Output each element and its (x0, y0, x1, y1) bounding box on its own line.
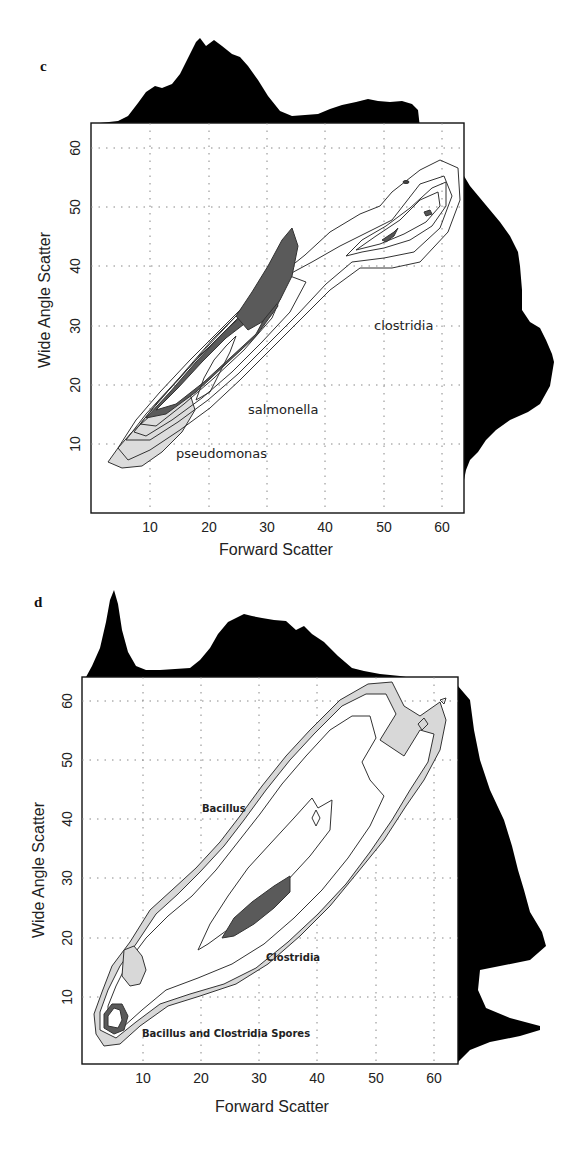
svg-text:30: 30 (67, 318, 83, 334)
panel-c-top-histogram (100, 38, 420, 128)
label-clostridia: Clostridia (266, 952, 320, 963)
svg-text:60: 60 (59, 693, 75, 709)
svg-text:20: 20 (67, 377, 83, 393)
panel-c-x-ticks: 10 20 30 40 50 60 (142, 519, 450, 535)
svg-text:30: 30 (259, 519, 275, 535)
panel-c-y-ticks: 10 20 30 40 50 60 (67, 140, 83, 452)
svg-text:10: 10 (59, 989, 75, 1005)
svg-text:60: 60 (434, 519, 450, 535)
svg-text:50: 50 (368, 1070, 384, 1086)
svg-text:60: 60 (426, 1070, 442, 1086)
svg-text:10: 10 (142, 519, 158, 535)
svg-text:30: 30 (59, 870, 75, 886)
svg-text:20: 20 (201, 519, 217, 535)
svg-text:60: 60 (67, 140, 83, 156)
svg-text:10: 10 (67, 436, 83, 452)
svg-text:40: 40 (67, 258, 83, 274)
panel-c-right-histogram (464, 176, 554, 480)
panel-c: pseudomonas salmonella clostridia 10 20 … (36, 38, 554, 558)
svg-text:50: 50 (59, 752, 75, 768)
panel-d: Bacillus Clostridia Bacillus and Clostri… (30, 590, 546, 1115)
panel-c-x-axis-label: Forward Scatter (219, 541, 333, 558)
label-clostridia: clostridia (374, 318, 433, 333)
svg-text:40: 40 (317, 519, 333, 535)
figure-canvas: pseudomonas salmonella clostridia 10 20 … (0, 0, 578, 1151)
label-spores: Bacillus and Clostridia Spores (142, 1028, 310, 1039)
label-pseudomonas: pseudomonas (176, 446, 267, 461)
label-salmonella: salmonella (248, 402, 318, 417)
panel-d-top-histogram (82, 590, 412, 678)
svg-text:40: 40 (309, 1070, 325, 1086)
panel-d-y-ticks: 10 20 30 40 50 60 (59, 693, 75, 1005)
panel-d-right-histogram (458, 686, 546, 1062)
svg-text:20: 20 (193, 1070, 209, 1086)
panel-d-x-axis-label: Forward Scatter (215, 1098, 329, 1115)
panel-d-x-ticks: 10 20 30 40 50 60 (135, 1070, 442, 1086)
label-bacillus: Bacillus (202, 803, 246, 814)
svg-text:50: 50 (376, 519, 392, 535)
svg-text:30: 30 (251, 1070, 267, 1086)
panel-c-y-axis-label: Wide Angle Scatter (36, 231, 53, 368)
svg-text:50: 50 (67, 199, 83, 215)
svg-text:20: 20 (59, 930, 75, 946)
panel-d-y-axis-label: Wide Angle Scatter (30, 801, 47, 938)
svg-text:10: 10 (135, 1070, 151, 1086)
svg-text:40: 40 (59, 811, 75, 827)
